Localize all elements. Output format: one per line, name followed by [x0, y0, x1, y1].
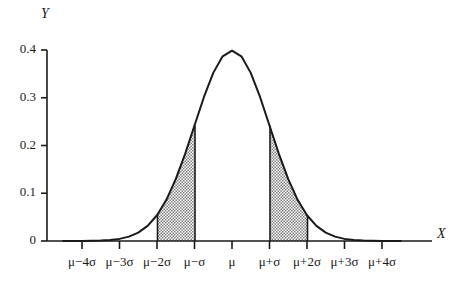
- x-axis-tick-label: μ+3σ: [331, 254, 359, 270]
- x-axis-tick-label: μ+2σ: [293, 254, 321, 270]
- x-axis-tick-label: μ−σ: [184, 254, 205, 270]
- y-axis-tick-label: 0.4: [2, 41, 36, 57]
- right-shaded-band: [63, 51, 401, 241]
- y-axis-tick-label: 0: [2, 232, 36, 248]
- x-axis-tick-label: μ−3σ: [106, 254, 134, 270]
- normal-distribution-figure: Y X 0.40.30.20.10 μ−4σμ−3σμ−2σμ−σμμ+σμ+2…: [0, 0, 463, 283]
- x-axis-tick-label: μ+4σ: [368, 254, 396, 270]
- left-shaded-band: [63, 51, 401, 241]
- x-axis-tick-label: μ+σ: [259, 254, 280, 270]
- x-axis-tick-label: μ−2σ: [143, 254, 171, 270]
- x-axis-tick-label: μ−4σ: [68, 254, 96, 270]
- y-axis-tick-label: 0.3: [2, 89, 36, 105]
- y-axis-tick-label: 0.1: [2, 184, 36, 200]
- x-axis-title: X: [437, 226, 446, 242]
- x-axis-ticks: [82, 241, 382, 249]
- x-axis-tick-label: μ: [229, 254, 236, 270]
- y-axis-tick-label: 0.2: [2, 137, 36, 153]
- y-axis-ticks: [41, 50, 47, 241]
- chart-canvas: [0, 0, 463, 283]
- y-axis-title: Y: [41, 6, 49, 22]
- normal-curve-path: [63, 51, 401, 241]
